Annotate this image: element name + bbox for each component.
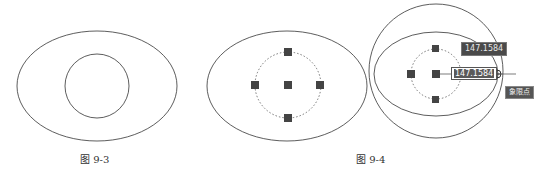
caption-figure-9-4: 图 9-4 [356, 151, 385, 166]
outer-ellipse [17, 31, 177, 141]
grip-top[interactable] [284, 48, 292, 56]
grip-center[interactable] [284, 81, 292, 89]
inner-circle [65, 54, 129, 118]
grip-right[interactable] [316, 81, 324, 89]
snap-tooltip: 象限点 [505, 86, 534, 99]
dimension-input-field[interactable]: 147.1584 [451, 67, 497, 80]
dimension-input-value: 147.1584 [454, 69, 494, 78]
grip-bottom[interactable] [284, 114, 292, 122]
figure-9-3 [17, 31, 177, 141]
grip-left[interactable] [407, 70, 415, 78]
dimension-tooltip: 147.1584 [461, 42, 507, 56]
figure-9-4-panel-a [207, 31, 367, 141]
drawing-canvas [0, 0, 547, 172]
grip-center[interactable] [432, 70, 440, 78]
grip-top[interactable] [432, 45, 439, 52]
grip-bottom[interactable] [432, 96, 439, 103]
grip-left[interactable] [251, 81, 259, 89]
caption-figure-9-3: 图 9-3 [80, 151, 109, 166]
